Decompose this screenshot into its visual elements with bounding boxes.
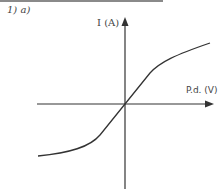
x-axis-arrow-icon bbox=[205, 101, 214, 108]
iv-graph bbox=[0, 0, 222, 189]
iv-curve bbox=[38, 43, 210, 156]
y-axis-arrow-icon bbox=[122, 17, 129, 26]
